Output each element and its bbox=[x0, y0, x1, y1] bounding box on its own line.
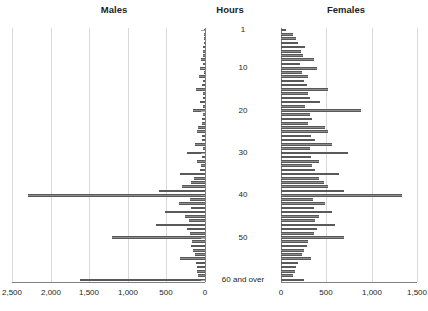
males-bar bbox=[190, 232, 205, 235]
hours-row-label: 50 bbox=[205, 233, 281, 242]
females-bar bbox=[281, 58, 314, 61]
females-bar bbox=[281, 207, 314, 210]
hours-row-label: 40 bbox=[205, 190, 281, 199]
females-bar bbox=[281, 29, 286, 32]
males-axis-tick-label: 2,000 bbox=[31, 288, 71, 297]
females-bar bbox=[281, 228, 317, 231]
females-bar bbox=[281, 54, 303, 57]
hours-row-label: 60 and over bbox=[205, 275, 281, 284]
females-bar bbox=[281, 245, 307, 248]
females-gridline bbox=[372, 28, 373, 282]
females-bar bbox=[281, 236, 344, 239]
males-bar bbox=[194, 177, 205, 180]
hours-row-label: 20 bbox=[205, 106, 281, 115]
males-bar bbox=[187, 228, 205, 231]
females-bar bbox=[281, 130, 328, 133]
females-bar bbox=[281, 279, 304, 282]
hours-tick-mark-left bbox=[201, 111, 205, 112]
females-bar bbox=[281, 211, 332, 214]
chart-title-males: Males bbox=[74, 4, 154, 15]
females-bar bbox=[281, 198, 313, 201]
males-bar bbox=[159, 190, 205, 193]
males-axis-baseline bbox=[12, 282, 205, 283]
males-bar bbox=[195, 143, 205, 146]
males-bar bbox=[189, 219, 205, 222]
chart-title-females: Females bbox=[306, 4, 386, 15]
females-bar bbox=[281, 113, 310, 116]
females-bar bbox=[281, 262, 298, 265]
females-bar bbox=[281, 169, 315, 172]
females-bar bbox=[281, 224, 335, 227]
hours-tick-mark-left bbox=[201, 195, 205, 196]
males-bar bbox=[190, 198, 205, 201]
females-bar bbox=[281, 219, 315, 222]
hours-tick-mark-left bbox=[201, 68, 205, 69]
females-bar bbox=[281, 190, 344, 193]
females-bar bbox=[281, 240, 308, 243]
females-bar bbox=[281, 97, 310, 100]
males-bar bbox=[80, 279, 205, 282]
females-bar bbox=[281, 105, 305, 108]
males-gridline bbox=[89, 28, 90, 282]
females-gridline bbox=[417, 28, 418, 282]
males-bar bbox=[182, 185, 205, 188]
females-panel bbox=[281, 28, 417, 282]
hours-tick-mark-left bbox=[201, 280, 205, 281]
females-bar bbox=[281, 42, 298, 45]
males-bar bbox=[28, 194, 205, 197]
males-bar bbox=[197, 270, 205, 273]
females-bar bbox=[281, 177, 319, 180]
males-bar bbox=[191, 207, 205, 210]
hours-axis-panel: 1102030405060 and over bbox=[205, 28, 281, 282]
females-bar bbox=[281, 139, 315, 142]
hours-tick-mark-left bbox=[201, 153, 205, 154]
females-bar bbox=[281, 75, 308, 78]
males-bar bbox=[185, 215, 205, 218]
males-panel bbox=[12, 28, 205, 282]
males-bar bbox=[198, 274, 205, 277]
females-gridline bbox=[326, 28, 327, 282]
females-bar bbox=[281, 249, 304, 252]
females-axis-tick-label: 500 bbox=[306, 288, 346, 297]
females-bar bbox=[281, 50, 301, 53]
males-gridline bbox=[128, 28, 129, 282]
chart-title-hours: Hours bbox=[200, 4, 260, 15]
hours-tick-mark-left bbox=[201, 30, 205, 31]
females-bar bbox=[281, 122, 308, 125]
females-axis-tick-label: 1,000 bbox=[352, 288, 392, 297]
hours-row-label: 1 bbox=[205, 25, 281, 34]
males-bar bbox=[198, 126, 205, 129]
males-bar bbox=[193, 249, 205, 252]
females-bar bbox=[281, 37, 296, 40]
females-bar bbox=[281, 173, 339, 176]
males-axis-tick-label: 500 bbox=[146, 288, 186, 297]
females-bar bbox=[281, 84, 307, 87]
females-bar bbox=[281, 194, 402, 197]
males-bar bbox=[191, 245, 205, 248]
females-bar bbox=[281, 118, 312, 121]
males-bar bbox=[180, 173, 205, 176]
males-bar bbox=[156, 224, 205, 227]
females-bar bbox=[281, 185, 328, 188]
males-bar bbox=[165, 211, 205, 214]
females-bar bbox=[281, 160, 319, 163]
males-axis-tick-label: 1,500 bbox=[69, 288, 109, 297]
males-bar bbox=[180, 257, 205, 260]
females-bar bbox=[281, 109, 361, 112]
males-bar bbox=[197, 266, 205, 269]
females-bar bbox=[281, 80, 304, 83]
females-bar bbox=[281, 88, 328, 91]
females-bar bbox=[281, 143, 332, 146]
males-axis-tick-label: 0 bbox=[185, 288, 225, 297]
females-axis-baseline bbox=[281, 282, 417, 283]
females-bar bbox=[281, 257, 311, 260]
males-bar bbox=[112, 236, 205, 239]
males-bar bbox=[179, 202, 205, 205]
males-bar bbox=[197, 130, 205, 133]
females-bar bbox=[281, 71, 302, 74]
hours-row-label: 30 bbox=[205, 148, 281, 157]
males-bar bbox=[195, 253, 205, 256]
females-bar bbox=[281, 274, 293, 277]
females-bar bbox=[281, 67, 317, 70]
females-bar bbox=[281, 270, 295, 273]
